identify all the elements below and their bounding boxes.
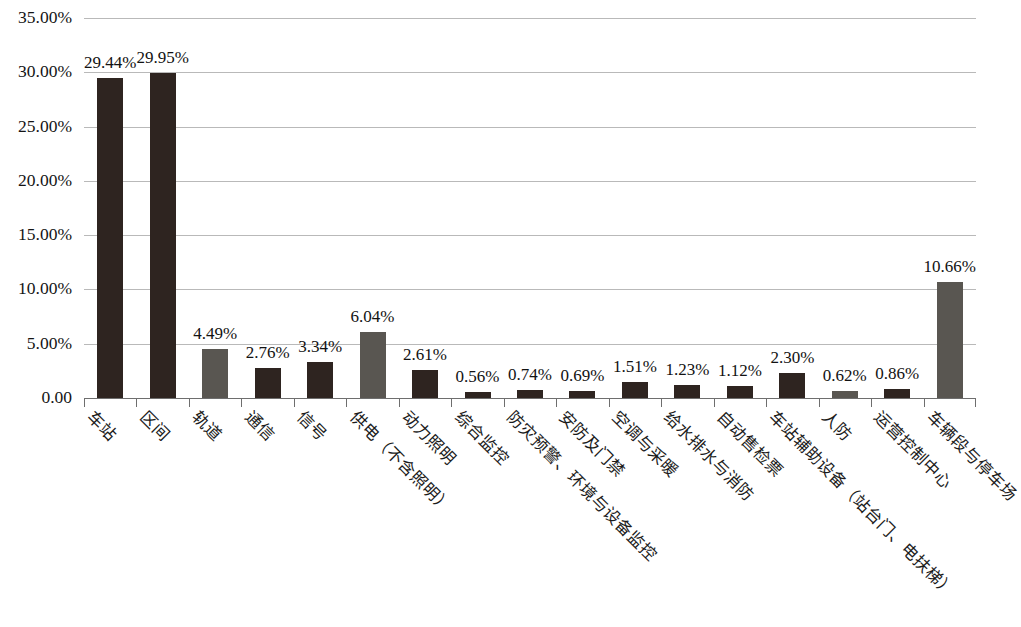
bar-value-label: 0.56% bbox=[456, 368, 500, 385]
y-axis-tick-label: 30.00% bbox=[0, 63, 72, 81]
bar-slot: 29.95% bbox=[136, 18, 188, 398]
x-axis-tick bbox=[346, 398, 347, 407]
bar[interactable] bbox=[779, 373, 805, 398]
bar[interactable] bbox=[360, 332, 386, 398]
bar-slot: 2.61% bbox=[399, 18, 451, 398]
x-axis-tick bbox=[294, 398, 295, 407]
bar-slot: 29.44% bbox=[84, 18, 136, 398]
plot-area: 0.005.00%10.00%15.00%20.00%25.00%30.00%3… bbox=[84, 18, 976, 398]
x-axis-category-labels: 车站区间轨道通信信号供电（不含照明）动力照明综合监控防灾预警、环境与设备监控安防… bbox=[0, 408, 983, 623]
bar-value-label: 29.95% bbox=[136, 49, 188, 66]
bar-slot: 0.69% bbox=[556, 18, 608, 398]
x-axis-category-label: 区间 bbox=[136, 408, 172, 444]
bar[interactable] bbox=[307, 362, 333, 398]
bar-value-label: 0.86% bbox=[875, 365, 919, 382]
x-axis-category-label: 信号 bbox=[294, 408, 330, 444]
bar-value-label: 4.49% bbox=[193, 325, 237, 342]
x-axis-tick bbox=[504, 398, 505, 407]
x-axis bbox=[84, 398, 976, 407]
bar[interactable] bbox=[97, 78, 123, 398]
x-axis-tick bbox=[661, 398, 662, 407]
y-axis-tick-label: 15.00% bbox=[0, 226, 72, 244]
x-axis-category-label: 供电（不含照明） bbox=[346, 408, 454, 516]
bar[interactable] bbox=[517, 390, 543, 398]
x-axis-tick bbox=[241, 398, 242, 407]
bar-slot: 0.56% bbox=[451, 18, 503, 398]
bar[interactable] bbox=[674, 385, 700, 398]
bar-value-label: 6.04% bbox=[351, 308, 395, 325]
bar-slot: 0.62% bbox=[819, 18, 871, 398]
x-axis-tick bbox=[609, 398, 610, 407]
bar-value-label: 3.34% bbox=[298, 338, 342, 355]
y-axis-tick-label: 20.00% bbox=[0, 172, 72, 190]
bar-value-label: 0.69% bbox=[561, 367, 605, 384]
x-axis-category-label: 轨道 bbox=[189, 408, 225, 444]
bar-value-label: 1.12% bbox=[718, 362, 762, 379]
x-axis-category-label: 综合监控 bbox=[451, 408, 511, 468]
y-axis-tick-label: 35.00% bbox=[0, 9, 72, 27]
bar-slot: 1.51% bbox=[609, 18, 661, 398]
x-axis-category-label: 人防 bbox=[819, 408, 855, 444]
bar-slot: 2.76% bbox=[241, 18, 293, 398]
y-axis-tick-label: 0.00 bbox=[0, 389, 72, 407]
x-axis-category-label: 车站 bbox=[84, 408, 120, 444]
bar[interactable] bbox=[412, 370, 438, 398]
x-axis-tick bbox=[84, 398, 85, 407]
x-axis-tick bbox=[819, 398, 820, 407]
x-axis-tick bbox=[975, 398, 976, 407]
x-axis-category-label: 车辆段与停车场 bbox=[924, 408, 1020, 504]
bar-value-label: 2.30% bbox=[770, 349, 814, 366]
bar[interactable] bbox=[569, 391, 595, 398]
bar-value-label: 1.51% bbox=[613, 358, 657, 375]
x-axis-tick bbox=[189, 398, 190, 407]
bar[interactable] bbox=[202, 349, 228, 398]
bar-value-label: 0.62% bbox=[823, 367, 867, 384]
bar[interactable] bbox=[622, 382, 648, 398]
bar-value-label: 2.61% bbox=[403, 346, 447, 363]
bar-value-label: 0.74% bbox=[508, 366, 552, 383]
x-axis-tick bbox=[451, 398, 452, 407]
bar-value-label: 2.76% bbox=[246, 344, 290, 361]
bar-value-label: 1.23% bbox=[665, 361, 709, 378]
bar-value-label: 29.44% bbox=[84, 54, 136, 71]
bar-slot: 4.49% bbox=[189, 18, 241, 398]
bar-series: 29.44%29.95%4.49%2.76%3.34%6.04%2.61%0.5… bbox=[84, 18, 976, 398]
bar[interactable] bbox=[937, 282, 963, 398]
bar[interactable] bbox=[884, 389, 910, 398]
bar-slot: 1.23% bbox=[661, 18, 713, 398]
bar-slot: 10.66% bbox=[924, 18, 976, 398]
bar[interactable] bbox=[727, 386, 753, 398]
x-axis-tick bbox=[924, 398, 925, 407]
x-axis-category-label: 给水排水与消防 bbox=[661, 408, 757, 504]
bar-value-label: 10.66% bbox=[924, 258, 976, 275]
y-axis-tick-label: 5.00% bbox=[0, 335, 72, 353]
bar-slot: 0.86% bbox=[871, 18, 923, 398]
x-axis-tick bbox=[766, 398, 767, 407]
x-axis-tick bbox=[871, 398, 872, 407]
x-axis-tick bbox=[399, 398, 400, 407]
bar[interactable] bbox=[150, 73, 176, 398]
x-axis-tick bbox=[714, 398, 715, 407]
x-axis-tick bbox=[136, 398, 137, 407]
bar[interactable] bbox=[832, 391, 858, 398]
x-axis-line bbox=[84, 398, 976, 399]
bar[interactable] bbox=[255, 368, 281, 398]
bar-slot: 3.34% bbox=[294, 18, 346, 398]
x-axis-tick bbox=[556, 398, 557, 407]
x-axis-category-label: 车站辅助设备（站台门、电扶梯） bbox=[766, 408, 959, 601]
bar-slot: 0.74% bbox=[504, 18, 556, 398]
bar-slot: 1.12% bbox=[714, 18, 766, 398]
y-axis-tick-label: 10.00% bbox=[0, 280, 72, 298]
bar-slot: 6.04% bbox=[346, 18, 398, 398]
x-axis-category-label: 通信 bbox=[241, 408, 277, 444]
bar-slot: 2.30% bbox=[766, 18, 818, 398]
y-axis-tick-label: 25.00% bbox=[0, 118, 72, 136]
